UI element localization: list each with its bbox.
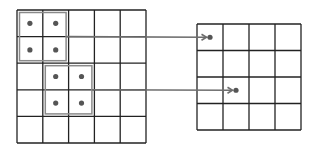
pooling-diagram bbox=[0, 0, 317, 147]
input-dot bbox=[79, 101, 84, 106]
input-dot bbox=[53, 21, 58, 26]
output-dot bbox=[233, 88, 238, 93]
input-dot bbox=[27, 47, 32, 52]
input-dot bbox=[53, 101, 58, 106]
region-1-arrow bbox=[66, 37, 206, 38]
input-dot bbox=[27, 21, 32, 26]
input-dot bbox=[79, 74, 84, 79]
output-grid bbox=[197, 24, 301, 130]
input-dot bbox=[53, 47, 58, 52]
output-dot bbox=[207, 35, 212, 40]
input-dot bbox=[53, 74, 58, 79]
